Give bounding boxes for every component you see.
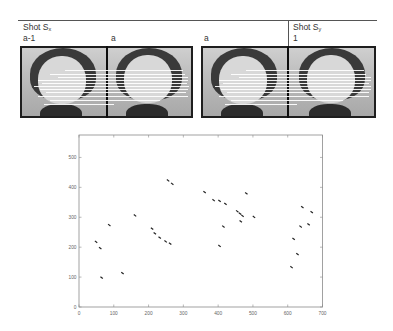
data-point [218,245,220,247]
data-point [212,199,214,201]
x-tick-label: 700 [318,311,326,316]
x-tick-label: 0 [78,311,81,316]
x-tick-label: 400 [214,311,222,316]
x-tick-label: 100 [110,311,118,316]
scatter-chart: 01002003004005006007000100200300400500 [0,0,393,331]
data-point [121,272,123,274]
data-point [134,215,136,217]
y-tick-label: 100 [68,275,76,280]
data-point [203,191,205,193]
data-point [253,216,255,218]
data-point [151,228,153,230]
data-point [290,266,292,268]
x-tick-label: 300 [179,311,187,316]
y-tick-label: 0 [74,305,77,310]
chart-points [95,180,313,279]
data-point [299,226,301,228]
data-point [239,213,241,215]
data-point [292,238,294,240]
data-point [169,243,171,245]
data-point [95,241,97,243]
data-point [222,226,224,228]
data-point [307,224,309,226]
data-point [171,183,173,185]
data-point [236,210,238,212]
plot-frame [79,135,323,307]
data-point [224,203,226,205]
data-point [159,237,161,239]
chart-axes: 01002003004005006007000100200300400500 [68,135,326,316]
y-tick-label: 200 [68,245,76,250]
y-tick-label: 300 [68,215,76,220]
data-point [99,247,101,249]
data-point [301,206,303,208]
data-point [296,253,298,255]
data-point [241,215,243,217]
x-tick-label: 600 [284,311,292,316]
data-point [167,180,169,182]
data-point [108,224,110,226]
y-tick-label: 400 [68,185,76,190]
data-point [240,221,242,223]
data-point [311,211,313,213]
data-point [245,192,247,194]
data-point [218,200,220,202]
y-tick-label: 500 [68,155,76,160]
data-point [154,233,156,235]
data-point [100,277,102,279]
data-point [164,241,166,243]
x-tick-label: 200 [145,311,153,316]
x-tick-label: 500 [249,311,257,316]
